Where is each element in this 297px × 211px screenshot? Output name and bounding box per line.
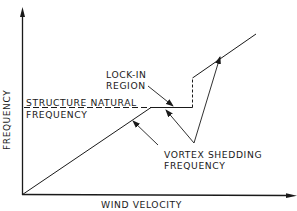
lock-in-label-line2: REGION	[106, 81, 146, 91]
structure-natural-label-line1: STRUCTURE NATURAL	[26, 98, 137, 108]
lock-in-pointer-arrow	[148, 86, 173, 106]
vortex-shedding-line-lower	[23, 108, 152, 195]
vortex-pointer-arrow-mid	[166, 110, 194, 143]
vortex-shedding-label-line2: FREQUENCY	[164, 161, 225, 171]
y-axis-label: FREQUENCY	[2, 90, 12, 150]
x-axis-arrowhead-icon	[286, 193, 297, 198]
y-axis-arrowhead-icon	[20, 7, 25, 17]
vortex-shedding-line-upper	[193, 34, 257, 78]
x-axis	[22, 195, 288, 196]
lock-in-label-line1: LOCK-IN	[106, 70, 147, 80]
vortex-pointer-arrow-lower	[133, 121, 158, 145]
x-axis-label: WIND VELOCITY	[101, 200, 182, 210]
vortex-shedding-label-line1: VORTEX SHEDDING	[164, 150, 262, 160]
structure-natural-label-line2: FREQUENCY	[26, 110, 87, 120]
vortex-pointer-arrow-upper	[194, 57, 220, 143]
